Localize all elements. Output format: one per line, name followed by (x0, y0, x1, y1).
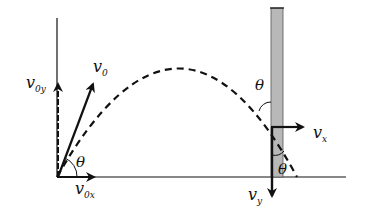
label-theta-wall-upper: θ (255, 76, 264, 94)
label-vy: vy (248, 185, 263, 206)
label-theta-launch: θ (76, 153, 85, 171)
label-v0x: v0x (75, 179, 95, 200)
label-v0y: v0y (26, 73, 47, 94)
label-vx: vx (313, 123, 327, 144)
label-theta-wall-lower: θ (278, 160, 287, 178)
theta-wall-upper-arc (259, 102, 271, 111)
label-v0: v0 (93, 57, 108, 78)
projectile-diagram: v0y v0 v0x θ θ θ vx vy (0, 0, 368, 214)
